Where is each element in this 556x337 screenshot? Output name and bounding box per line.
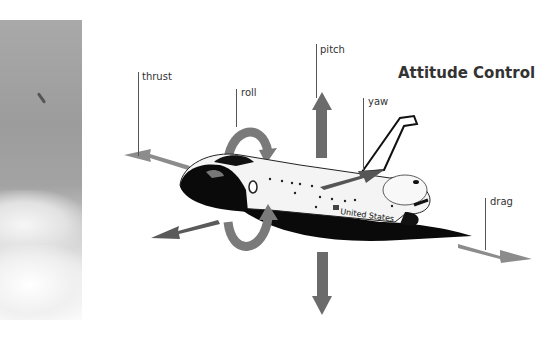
pitch-down-arrow-icon (312, 252, 332, 315)
drag-label: drag (490, 196, 513, 207)
side-arrow-icon (151, 220, 220, 239)
attitude-control-diagram: United States thrust roll pitch yaw (0, 0, 556, 337)
drag-leader-line (485, 198, 486, 250)
vertical-tail (362, 116, 417, 172)
yaw-leader-line (363, 98, 364, 170)
roll-label: roll (241, 87, 257, 98)
thrust-arrow-icon (124, 149, 190, 170)
pitch-up-arrow-icon (312, 92, 332, 158)
thrust-label: thrust (142, 71, 172, 82)
pitch-label: pitch (320, 44, 345, 55)
roll-leader-line (236, 89, 237, 127)
yaw-label: yaw (368, 96, 388, 107)
pitch-leader-line (316, 44, 317, 98)
thrust-leader-line (138, 72, 139, 156)
drag-arrow-icon (458, 244, 532, 263)
diagram-title: Attitude Control (398, 64, 535, 82)
